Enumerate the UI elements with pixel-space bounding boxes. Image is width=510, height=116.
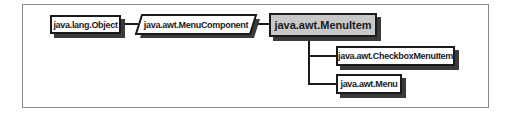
edge-menuitem-trunk bbox=[308, 37, 310, 85]
edge-menuitem-to-checkboxmenuitem bbox=[308, 55, 336, 57]
edge-menuitem-to-menu bbox=[308, 83, 336, 85]
class-label: java.awt.MenuItem bbox=[274, 19, 371, 31]
class-node-menu: java.awt.Menu bbox=[336, 74, 402, 94]
class-node-object: java.lang.Object bbox=[50, 15, 121, 34]
class-label: java.awt.Menu bbox=[340, 79, 397, 89]
class-node-menucomponent: java.awt.MenuComponent bbox=[136, 15, 256, 34]
class-label: java.awt.CheckboxMenuItem bbox=[338, 51, 453, 61]
class-label: java.lang.Object bbox=[53, 20, 117, 30]
class-node-checkboxmenuitem: java.awt.CheckboxMenuItem bbox=[336, 46, 455, 66]
class-label: java.awt.MenuComponent bbox=[144, 20, 248, 30]
class-node-menuitem: java.awt.MenuItem bbox=[269, 13, 377, 37]
